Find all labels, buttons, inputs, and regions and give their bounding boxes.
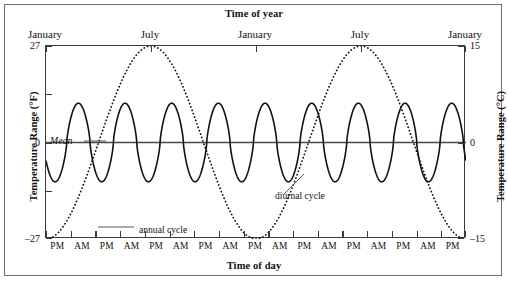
- bottom-axis-label: AM: [371, 241, 387, 251]
- bottom-axis-label: AM: [223, 241, 239, 251]
- top-axis-label: January: [28, 28, 62, 40]
- right-axis-tick: [458, 143, 464, 144]
- bottom-axis-tick: [392, 231, 393, 237]
- bottom-axis-label: AM: [74, 241, 90, 251]
- top-axis-label: July: [351, 28, 369, 40]
- annotation-leader-lines: [84, 141, 304, 227]
- bottom-axis-label: PM: [149, 241, 163, 251]
- bottom-axis-label: PM: [248, 241, 262, 251]
- bottom-axis-tick: [145, 231, 146, 237]
- bottom-axis-label: AM: [420, 241, 436, 251]
- top-axis-tick: [256, 46, 257, 52]
- top-axis-label: July: [141, 28, 159, 40]
- plot-area: Mean annual cycle diurnal cycle: [45, 45, 465, 238]
- left-axis-tick-label: 27: [30, 40, 40, 51]
- bottom-axis-tick: [244, 231, 245, 237]
- bottom-axis-label: AM: [272, 241, 288, 251]
- bottom-axis-tick: [194, 231, 195, 237]
- bottom-axis-tick: [95, 231, 96, 237]
- top-axis-tick: [151, 46, 152, 52]
- top-axis-label: January: [238, 28, 272, 40]
- left-axis-tick: [46, 143, 52, 144]
- bottom-axis-label: PM: [347, 241, 361, 251]
- bottom-axis-label: PM: [50, 241, 64, 251]
- right-axis-tick: [458, 238, 464, 239]
- right-axis-tick: [458, 46, 464, 47]
- annual-cycle-annotation: annual cycle: [139, 224, 187, 235]
- bottom-axis-label: AM: [321, 241, 337, 251]
- top-axis-tick: [361, 46, 362, 52]
- mean-annotation: Mean: [50, 135, 72, 146]
- bottom-axis-tick: [441, 231, 442, 237]
- top-axis-label: January: [448, 28, 482, 40]
- bottom-axis-tick: [342, 231, 343, 237]
- left-axis-tick: [46, 191, 52, 192]
- bottom-axis-tick: [46, 231, 47, 237]
- bottom-axis-tick: [219, 231, 220, 237]
- figure-container: Time of year JanuaryJulyJanuaryJulyJanua…: [0, 0, 508, 282]
- bottom-axis-tick: [367, 231, 368, 237]
- bottom-axis-label: PM: [446, 241, 460, 251]
- bottom-axis-label: AM: [124, 241, 140, 251]
- left-axis-tick: [46, 238, 52, 239]
- right-axis-tick-label: –15: [470, 233, 485, 244]
- bottom-axis-tick: [293, 231, 294, 237]
- left-axis-tick: [46, 94, 52, 95]
- bottom-axis-label: PM: [100, 241, 114, 251]
- bottom-axis-tick: [268, 231, 269, 237]
- top-axis-title: Time of year: [0, 8, 508, 19]
- bottom-axis-label: AM: [173, 241, 189, 251]
- bottom-axis-time-labels: PMAMPMAMPMAMPMAMPMAMPMAMPMAMPMAMPM: [45, 241, 465, 255]
- right-axis-title: Temperature Range (°C): [495, 52, 506, 242]
- diurnal-cycle-annotation: diurnal cycle: [275, 190, 325, 201]
- bottom-axis-label: PM: [297, 241, 311, 251]
- bottom-axis-tick: [465, 231, 466, 237]
- bottom-axis-tick: [318, 231, 319, 237]
- bottom-axis-tick: [417, 231, 418, 237]
- bottom-axis-tick: [170, 231, 171, 237]
- bottom-axis-tick: [71, 231, 72, 237]
- bottom-axis-title: Time of day: [0, 260, 508, 271]
- left-axis-tick: [46, 46, 52, 47]
- chart-curves: [46, 46, 466, 239]
- bottom-axis-tick: [120, 231, 121, 237]
- top-axis-tick: [465, 46, 466, 52]
- right-axis-tick-label: 15: [470, 40, 480, 51]
- left-axis-title: Temperature Range (°F): [28, 52, 39, 242]
- bottom-axis-label: PM: [199, 241, 213, 251]
- right-axis-tick-label: 0: [470, 136, 475, 147]
- bottom-axis-label: PM: [396, 241, 410, 251]
- top-axis-month-labels: JanuaryJulyJanuaryJulyJanuary: [45, 28, 465, 42]
